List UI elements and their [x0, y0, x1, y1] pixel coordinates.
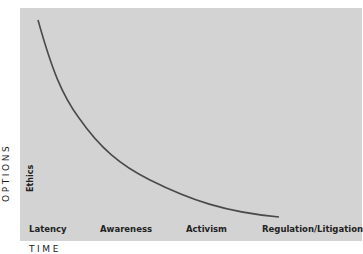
stage-awareness: Awareness — [100, 224, 152, 234]
curve-path — [38, 20, 279, 217]
x-axis-label: TIME — [29, 244, 61, 254]
stage-latency: Latency — [29, 224, 67, 234]
ethics-marker: Ethics — [26, 165, 35, 192]
stage-regulation-litigation: Regulation/Litigation — [262, 224, 363, 234]
y-axis-label: OPTIONS — [1, 144, 11, 202]
stage-activism: Activism — [186, 224, 227, 234]
